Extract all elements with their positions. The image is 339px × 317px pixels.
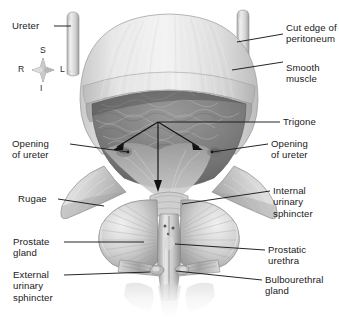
label-external-urinary-sphincter: External urinary sphincter (13, 269, 53, 303)
label-trigone: Trigone (283, 116, 316, 127)
label-smooth-muscle: Smooth muscle (286, 62, 320, 85)
label-rugae: Rugae (18, 193, 47, 204)
compass-inferior-label: I (40, 84, 42, 93)
bulbourethral-gland-right (175, 265, 189, 275)
label-internal-urinary-sphincter: Internal urinary sphincter (273, 185, 313, 219)
label-prostate-gland: Prostate gland (13, 236, 50, 259)
label-bulbourethral-gland: Bulbourethral gland (265, 274, 323, 297)
ureter-left-tube (67, 12, 79, 76)
seminal-colliculus (164, 236, 174, 250)
ejaculatory-duct-opening-left (164, 225, 167, 228)
label-opening-of-ureter-left: Opening of ureter (12, 138, 49, 161)
label-cut-edge-of-peritoneum: Cut edge of peritoneum (286, 22, 337, 45)
label-ureter: Ureter (12, 20, 39, 31)
anatomy-figure: S I R L Ureter Cut edge of peritoneum Sm… (0, 0, 339, 317)
bulbourethral-gland-left (150, 265, 164, 275)
label-prostatic-urethra: Prostatic urethra (268, 244, 306, 267)
compass-superior-label: S (40, 46, 46, 55)
compass-left-label: L (60, 65, 65, 74)
orientation-compass-icon (32, 58, 54, 82)
ejaculatory-duct-opening-right (172, 227, 175, 230)
label-opening-of-ureter-right: Opening of ureter (271, 138, 308, 161)
compass-right-label: R (18, 65, 24, 74)
